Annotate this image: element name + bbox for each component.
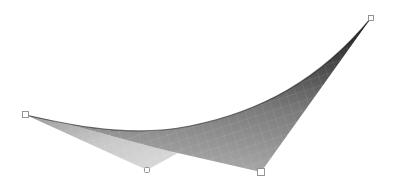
control-point-p01[interactable] <box>369 16 374 21</box>
surface-canvas[interactable] <box>0 0 396 188</box>
control-point-p11[interactable] <box>258 169 265 176</box>
handle-icon[interactable] <box>369 16 374 21</box>
surface-front-face <box>26 18 371 172</box>
control-point-p10[interactable] <box>145 168 150 173</box>
handle-icon[interactable] <box>23 112 29 118</box>
control-point-p00[interactable] <box>23 112 29 118</box>
handle-icon[interactable] <box>258 169 265 176</box>
handle-icon[interactable] <box>145 168 150 173</box>
